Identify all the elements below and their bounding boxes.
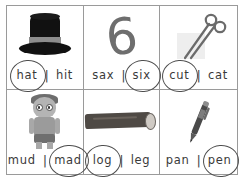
word-separator: | (43, 69, 51, 82)
hat-brim (19, 42, 71, 55)
boy-leg-left (36, 142, 42, 149)
word-option-circled[interactable]: pen (204, 151, 236, 169)
word-separator: | (194, 154, 202, 167)
word-option-circled[interactable]: hat (13, 66, 42, 84)
word-option[interactable]: leg (127, 151, 155, 169)
boy-arm-right (55, 118, 60, 134)
word-option[interactable]: sax (88, 66, 118, 84)
word-option-circled[interactable]: log (89, 151, 117, 169)
word-option[interactable]: pan (162, 151, 194, 169)
log-end-cap (145, 113, 157, 130)
digit-six-icon: 6 (103, 10, 140, 63)
word-choice-row: hat | hit (7, 64, 83, 86)
word-choice-row: sax | six (84, 64, 160, 86)
log-icon (85, 110, 157, 132)
picture-log (84, 92, 160, 150)
worksheet-page: hat | hit 6 sax | six (0, 0, 244, 184)
worksheet-cell-log[interactable]: log | leg (84, 90, 161, 174)
word-option-circled[interactable]: six (129, 66, 155, 84)
worksheet-cell-six[interactable]: 6 sax | six (84, 6, 161, 90)
word-separator: | (195, 69, 203, 82)
word-choice-row: mud | mad (7, 149, 83, 171)
top-hat-icon (18, 13, 72, 61)
word-choice-row: pan | pen (160, 149, 237, 171)
word-option[interactable]: cat (204, 66, 232, 84)
scissors-icon (171, 11, 227, 63)
pen-icon (176, 95, 222, 147)
worksheet-grid: hat | hit 6 sax | six (6, 5, 238, 175)
boy-pupil-left (38, 106, 41, 109)
picture-angry-boy (7, 92, 83, 150)
log-body (85, 112, 151, 129)
word-separator: | (41, 154, 49, 167)
boy-pupil-right (48, 106, 51, 109)
worksheet-cell-mad[interactable]: mud | mad (7, 90, 84, 174)
word-separator: | (117, 154, 125, 167)
picture-digit-six: 6 (84, 8, 160, 66)
word-separator: | (119, 69, 127, 82)
picture-top-hat (7, 8, 83, 66)
picture-pen (160, 92, 237, 150)
worksheet-cell-pen[interactable]: pan | pen (160, 90, 237, 174)
hat-top (30, 13, 60, 20)
boy-leg-right (47, 142, 53, 149)
worksheet-cell-hat[interactable]: hat | hit (7, 6, 84, 90)
word-option[interactable]: mud (4, 151, 40, 169)
word-option[interactable]: hit (52, 66, 77, 84)
word-choice-row: cut | cat (160, 64, 237, 86)
word-choice-row: log | leg (84, 149, 160, 171)
worksheet-cell-cut[interactable]: cut | cat (160, 6, 237, 90)
word-option-circled[interactable]: mad (50, 151, 86, 169)
picture-scissors (160, 8, 237, 66)
word-option-circled[interactable]: cut (165, 66, 193, 84)
angry-boy-icon (25, 93, 65, 149)
